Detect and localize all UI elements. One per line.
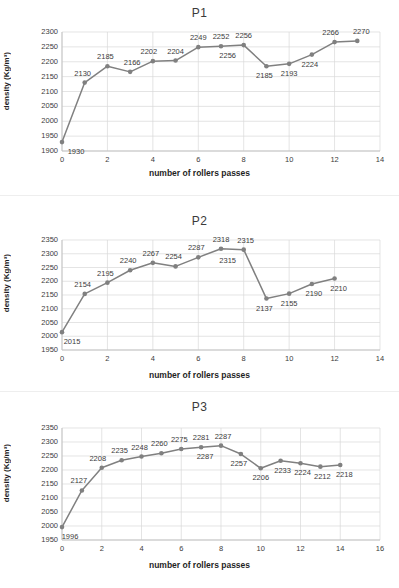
- chart-panel-p2: P2density (Kg/m³)number of rollers passe…: [0, 196, 399, 392]
- chart-title-p3: P3: [0, 400, 399, 414]
- data-point: [310, 282, 315, 287]
- y-tick-label: 2200: [28, 276, 58, 285]
- data-point-label: 2287: [188, 243, 205, 252]
- x-tick-label: 4: [141, 155, 165, 164]
- data-point-label: 2318: [213, 235, 230, 244]
- y-tick-label: 1950: [28, 131, 58, 140]
- data-point-label: 2206: [252, 473, 269, 482]
- data-point-label: 2287: [215, 432, 232, 441]
- data-point: [355, 39, 360, 44]
- data-point: [318, 464, 323, 469]
- x-tick-label: 0: [50, 544, 74, 553]
- y-tick-label: 2250: [28, 42, 58, 51]
- x-axis-label-p2: number of rollers passes: [0, 370, 399, 380]
- data-point-label: 2218: [336, 470, 353, 479]
- chart-panel-p3: P3density (Kg/m³)number of rollers passe…: [0, 392, 399, 588]
- data-point: [99, 465, 104, 470]
- x-tick-label: 14: [368, 155, 392, 164]
- data-point: [173, 264, 178, 269]
- data-point-label: 2190: [306, 289, 323, 298]
- data-point: [173, 58, 178, 63]
- x-tick-label: 10: [249, 544, 273, 553]
- data-point-label: 2235: [111, 446, 128, 455]
- data-point: [179, 447, 184, 452]
- data-point: [60, 525, 65, 530]
- data-point: [264, 296, 269, 301]
- data-point-label: 2257: [231, 459, 248, 468]
- x-tick-label: 0: [50, 354, 74, 363]
- data-point: [60, 330, 65, 335]
- data-point-label: 2266: [322, 28, 339, 37]
- data-point: [80, 488, 85, 493]
- y-tick-label: 2150: [28, 72, 58, 81]
- x-tick-label: 14: [368, 354, 392, 363]
- plot-area-p3: 1950200020502100215022002250230023500246…: [62, 428, 380, 540]
- x-tick-label: 12: [289, 544, 313, 553]
- y-tick-label: 2000: [28, 521, 58, 530]
- data-point: [128, 268, 133, 273]
- x-tick-label: 2: [95, 155, 119, 164]
- x-tick-label: 2: [90, 544, 114, 553]
- data-point: [128, 70, 133, 75]
- plot-canvas-p3: [62, 428, 380, 540]
- y-tick-label: 2000: [28, 116, 58, 125]
- figure-page: P1density (Kg/m³)number of rollers passe…: [0, 0, 399, 588]
- data-point: [82, 292, 87, 297]
- data-point: [139, 454, 144, 459]
- data-point-label: 2127: [71, 476, 88, 485]
- x-tick-label: 4: [130, 544, 154, 553]
- data-point: [264, 64, 269, 69]
- data-point-label: 2270: [353, 27, 370, 36]
- x-tick-label: 4: [141, 354, 165, 363]
- x-axis-label-p3: number of rollers passes: [0, 560, 399, 570]
- data-point: [287, 62, 292, 67]
- data-point-label: 2015: [64, 337, 81, 346]
- chart-title-p2: P2: [0, 214, 399, 228]
- y-tick-label: 2100: [28, 493, 58, 502]
- data-point-label: 2224: [302, 60, 319, 69]
- x-tick-label: 2: [95, 354, 119, 363]
- plot-area-p1: 1900195020002050210021502200225023000246…: [62, 32, 380, 151]
- data-point-label: 2137: [256, 304, 273, 313]
- data-point: [298, 461, 303, 466]
- y-axis-label-p3: density (Kg/m³): [2, 444, 16, 502]
- y-tick-label: 1900: [28, 146, 58, 155]
- x-tick-label: 0: [50, 155, 74, 164]
- data-point-label: 1930: [68, 147, 85, 156]
- data-point-label: 2130: [74, 69, 91, 78]
- data-point-label: 1996: [62, 532, 79, 541]
- x-tick-label: 14: [328, 544, 352, 553]
- x-tick-label: 6: [169, 544, 193, 553]
- data-point-label: 2166: [124, 58, 141, 67]
- data-point: [278, 458, 283, 463]
- data-point: [151, 59, 156, 64]
- data-point: [196, 255, 201, 260]
- data-point-annotation: 2287: [197, 452, 214, 461]
- data-point-label: 2281: [193, 433, 210, 442]
- y-tick-label: 2150: [28, 479, 58, 488]
- data-point-label: 2240: [120, 256, 137, 265]
- x-tick-label: 8: [209, 544, 233, 553]
- y-tick-label: 2050: [28, 507, 58, 516]
- chart-title-p1: P1: [0, 6, 399, 20]
- data-point: [287, 291, 292, 296]
- y-tick-label: 2100: [28, 304, 58, 313]
- y-tick-label: 2050: [28, 101, 58, 110]
- data-point-label: 2208: [89, 454, 106, 463]
- data-point: [239, 452, 244, 457]
- data-point-label: 2210: [330, 284, 347, 293]
- y-tick-label: 2350: [28, 235, 58, 244]
- data-point: [105, 280, 110, 285]
- data-point: [151, 261, 156, 266]
- data-point: [338, 463, 343, 468]
- x-tick-label: 12: [323, 155, 347, 164]
- y-tick-label: 1950: [28, 345, 58, 354]
- data-point: [82, 80, 87, 85]
- x-tick-label: 8: [232, 354, 256, 363]
- y-tick-label: 2050: [28, 318, 58, 327]
- data-point: [241, 43, 246, 48]
- data-point-label: 2155: [281, 299, 298, 308]
- data-point: [332, 276, 337, 281]
- data-point: [219, 247, 224, 252]
- plot-canvas-p1: [62, 32, 380, 151]
